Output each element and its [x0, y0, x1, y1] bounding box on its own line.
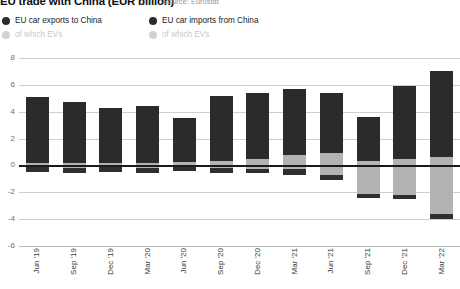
- bar-group[interactable]: [99, 58, 122, 246]
- bar-group[interactable]: [283, 58, 306, 246]
- bar-segment-exports: [26, 97, 49, 163]
- bar-segment-imports: [357, 194, 380, 198]
- bar-segment-imports: [393, 195, 416, 199]
- bar-group[interactable]: [63, 58, 86, 246]
- legend-label: EU car exports to China: [15, 17, 102, 25]
- y-axis-tick-label: -4: [0, 215, 15, 223]
- bar-group[interactable]: [246, 58, 269, 246]
- legend-dot-icon: [2, 17, 10, 25]
- y-axis-tick-label: -6: [0, 242, 15, 250]
- bar-segment-exports: [63, 102, 86, 162]
- y-axis-tick-label: 8: [0, 54, 15, 62]
- bar-segment-imports: [283, 169, 306, 174]
- x-axis-labels: Jun '19Sep '19Dec '19Mar '20Jun '20Sep '…: [19, 248, 460, 289]
- bar-segment-imports: [63, 168, 86, 173]
- x-axis-tick-label: Dec '20: [254, 248, 262, 275]
- bar-segment-exports: [173, 118, 196, 162]
- legend-column-exports: EU car exports to China of which EVs: [2, 14, 102, 42]
- bar-segment-imports-ev: [430, 165, 453, 213]
- bar-segment-exports: [357, 117, 380, 161]
- y-axis-tick-label: 6: [0, 81, 15, 89]
- y-axis-tick-label: 0: [0, 161, 15, 169]
- bar-segment-exports-ev: [283, 155, 306, 165]
- bar-group[interactable]: [210, 58, 233, 246]
- bar-segment-imports-ev: [393, 165, 416, 195]
- legend-item-exports[interactable]: EU car exports to China: [2, 14, 102, 28]
- zero-axis-line: [19, 165, 460, 166]
- bar-segment-exports: [320, 93, 343, 153]
- x-axis-tick-label: Mar '20: [144, 248, 152, 274]
- legend-label: of which EVs: [15, 31, 62, 39]
- bar-segment-exports-ev: [430, 157, 453, 165]
- legend-item-imports[interactable]: EU car imports from China: [149, 14, 258, 28]
- bar-segment-exports: [136, 106, 159, 162]
- bar-segment-imports: [320, 175, 343, 180]
- bar-segment-imports-ev: [357, 165, 380, 193]
- bar-group[interactable]: [136, 58, 159, 246]
- x-axis-tick-label: Mar '21: [291, 248, 299, 274]
- y-axis-tick-label: 2: [0, 135, 15, 143]
- bar-segment-exports: [99, 108, 122, 163]
- bar-group[interactable]: [393, 58, 416, 246]
- bar-segment-imports: [99, 167, 122, 172]
- x-axis-tick-label: Dec '21: [401, 248, 409, 275]
- bar-segment-imports: [136, 168, 159, 173]
- legend-dot-icon: [149, 17, 157, 25]
- bar-segment-imports: [173, 167, 196, 171]
- bar-segment-imports: [26, 167, 49, 172]
- bar-segment-imports: [430, 214, 453, 219]
- x-axis-tick-label: Sep '21: [364, 248, 372, 275]
- x-axis-tick-label: Mar '22: [438, 248, 446, 274]
- bar-segment-exports: [210, 96, 233, 162]
- y-axis-tick-label: 4: [0, 108, 15, 116]
- bar-group[interactable]: [173, 58, 196, 246]
- x-axis-tick-label: Dec '19: [107, 248, 115, 275]
- bar-segment-imports-ev: [320, 165, 343, 174]
- axis-baseline: [19, 246, 460, 247]
- bar-group[interactable]: [430, 58, 453, 246]
- page-title: EU trade with China (EUR billion): [0, 0, 174, 7]
- bar-segment-exports: [283, 89, 306, 155]
- chart-source: Source: Eurostat: [163, 0, 219, 6]
- bar-group[interactable]: [26, 58, 49, 246]
- x-axis-tick-label: Jun '19: [33, 248, 41, 274]
- bar-group[interactable]: [320, 58, 343, 246]
- x-axis-tick-label: Sep '19: [70, 248, 78, 275]
- bar-segment-imports: [246, 169, 269, 174]
- y-axis-tick-label: -2: [0, 188, 15, 196]
- bar-segment-exports-ev: [393, 159, 416, 166]
- bar-segment-exports-ev: [246, 159, 269, 166]
- plot-area: 86420-2-4-6: [19, 58, 460, 246]
- x-axis-tick-label: Sep '20: [217, 248, 225, 275]
- chart-container: EU trade with China (EUR billion) Source…: [0, 0, 460, 289]
- bar-segment-exports: [430, 71, 453, 157]
- x-axis-tick-label: Jun '21: [327, 248, 335, 274]
- legend-label: of which EVs: [162, 31, 209, 39]
- bar-segment-exports: [246, 93, 269, 159]
- bar-segment-imports: [210, 168, 233, 173]
- bar-segment-exports-ev: [320, 153, 343, 165]
- x-axis-tick-label: Jun '20: [180, 248, 188, 274]
- legend-item-imports-ev[interactable]: of which EVs: [149, 28, 258, 42]
- bar-segment-exports: [393, 86, 416, 159]
- legend-column-imports: EU car imports from China of which EVs: [149, 14, 258, 42]
- bars-layer: [19, 58, 460, 246]
- bar-group[interactable]: [357, 58, 380, 246]
- chart-legend: EU car exports to China of which EVs EU …: [0, 14, 460, 42]
- legend-label: EU car imports from China: [162, 17, 258, 25]
- legend-dot-icon: [2, 31, 10, 39]
- legend-item-exports-ev[interactable]: of which EVs: [2, 28, 102, 42]
- legend-dot-icon: [149, 31, 157, 39]
